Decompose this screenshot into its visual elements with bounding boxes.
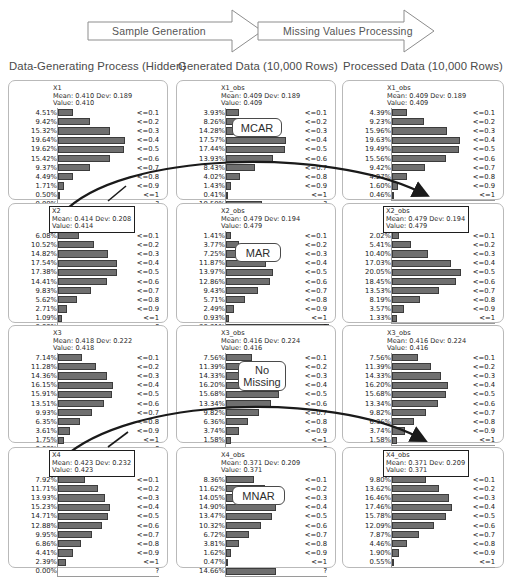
histogram-bin-label: <=0.2 xyxy=(305,363,327,371)
histogram-row: 6.36%<=0.8 xyxy=(347,417,499,426)
histogram-row-percent: 3.74% xyxy=(181,427,226,435)
histogram-bin-label: <=0.8 xyxy=(305,296,327,304)
histogram-row-percent: 20.05% xyxy=(347,268,392,276)
histogram-bin-label: <=0.5 xyxy=(305,268,327,276)
histogram-bin-label: <=0.9 xyxy=(305,182,327,190)
histogram-row: 13.93%<=0.3 xyxy=(13,493,163,502)
histogram-bar xyxy=(58,241,94,248)
histogram-bin-label: <=0.5 xyxy=(137,145,159,153)
histogram-row-percent: 19.64% xyxy=(13,136,58,144)
histogram-bar xyxy=(58,354,82,361)
histogram-row: 4.46%<=0.8 xyxy=(347,539,499,548)
histogram-panel-X1-hidden: X1Mean: 0.410 Dev: 0.189Value: 0.4104.51… xyxy=(8,80,168,200)
histogram-bar xyxy=(392,559,394,566)
histogram-row-percent: 1.09% xyxy=(13,314,58,322)
histogram-vertical-axis xyxy=(225,231,226,332)
histogram-bin-label: <=0.4 xyxy=(137,503,159,511)
histogram-row: 15.96%<=0.3 xyxy=(347,126,499,135)
histogram-row-percent: 1.60% xyxy=(347,182,392,190)
histogram-panel-X2-hidden: X2Mean: 0.414 Dev: 0.208Value: 0.4146.08… xyxy=(8,203,168,323)
panel-header-X1-generated: X1_obsMean: 0.409 Dev: 0.189Value: 0.409 xyxy=(221,85,300,108)
histogram-bin-label: <=0.1 xyxy=(305,109,327,117)
histogram-row-percent: 2.02% xyxy=(347,232,392,240)
histogram-row-percent: 13.47% xyxy=(181,512,226,520)
panel-header-X1-processed: X1_obsMean: 0.409 Dev: 0.189Value: 0.409 xyxy=(387,85,466,108)
histogram-bar xyxy=(392,531,419,538)
histogram-bar xyxy=(392,400,438,407)
histogram-row-percent: 9.37% xyxy=(13,164,58,172)
histogram-row-percent: 11.71% xyxy=(13,485,58,493)
histogram-row: 9.82%<=0.7 xyxy=(347,408,499,417)
histogram-row: 6.35%<=0.8 xyxy=(13,417,163,426)
histogram-panel-X1-generated: X1_obsMean: 0.409 Dev: 0.189Value: 0.409… xyxy=(176,80,336,200)
histogram-bar xyxy=(392,354,418,361)
histogram-bin-label: <=0.2 xyxy=(137,363,159,371)
histogram-row: 4.51%<=0.1 xyxy=(13,108,163,117)
histogram-bin-label: <=0.2 xyxy=(473,363,495,371)
histogram-bin-label: <=1 xyxy=(479,436,495,444)
histogram-row-percent: 3.74% xyxy=(347,427,392,435)
histogram-panel-X4-processed: X4_obsMean: 0.371 Dev: 0.209Value: 0.371… xyxy=(342,447,504,568)
histogram-bar xyxy=(58,127,110,134)
histogram-row: 9.42%<=0.2 xyxy=(13,117,163,126)
histogram-row-percent: 1.41% xyxy=(181,232,226,240)
histogram-bar xyxy=(226,522,261,529)
histogram-bar xyxy=(226,232,231,239)
histogram-bar xyxy=(392,315,397,322)
histogram-row-percent: 14.82% xyxy=(13,250,58,258)
mnar-chip[interactable]: MNAR xyxy=(232,486,285,505)
histogram-row-percent: 9.82% xyxy=(347,409,392,417)
histogram-bin-label: <=0.3 xyxy=(473,494,495,502)
no-missing-chip[interactable]: No Missing xyxy=(238,361,286,391)
histogram-row: 17.38%<=0.5 xyxy=(13,268,163,277)
histogram-row: 14.66%? xyxy=(181,567,331,576)
histogram-bar xyxy=(58,382,113,389)
histogram-bar xyxy=(392,260,451,267)
histogram-row: 13.34%<=0.6 xyxy=(347,399,499,408)
panel-header-X4-processed: X4_obsMean: 0.371 Dev: 0.209Value: 0.371 xyxy=(383,450,469,477)
histogram-row: 0.41%<=1 xyxy=(181,191,331,200)
histogram-bin-label: <=0.8 xyxy=(473,173,495,181)
histogram-bar xyxy=(392,437,397,444)
histogram-bin-label: <=0.1 xyxy=(305,476,327,484)
histogram-row-percent: 6.72% xyxy=(181,531,226,539)
panel-header-X2-generated: X2_obsMean: 0.479 Dev: 0.194Value: 0.479 xyxy=(221,208,300,231)
histogram-bar xyxy=(58,531,92,538)
mar-chip[interactable]: MAR xyxy=(235,243,281,262)
histogram-bin-label: <=0.4 xyxy=(137,136,159,144)
histogram-row: 9.83%<=0.7 xyxy=(13,286,163,295)
histogram-bar xyxy=(392,173,407,180)
histogram-bin-label: <=0.4 xyxy=(137,259,159,267)
histogram-bar xyxy=(392,164,425,171)
histogram-bin-label: <=0.7 xyxy=(473,164,495,172)
histogram-row: 0.93%<=1 xyxy=(181,314,331,323)
banner-arrows-svg xyxy=(0,0,511,62)
histogram-row-percent: 15.91% xyxy=(13,390,58,398)
histogram-bin-label: <=1 xyxy=(143,436,159,444)
histogram-row-percent: 4.27% xyxy=(347,173,392,181)
histogram-row-percent: 9.95% xyxy=(13,531,58,539)
histogram-bin-label: <=0.2 xyxy=(473,241,495,249)
histogram-baseline-axis xyxy=(391,445,495,446)
histogram-row-percent: 15.96% xyxy=(347,127,392,135)
histogram-bin-label: <=0.1 xyxy=(137,354,159,362)
histogram-bar xyxy=(58,315,62,322)
histogram-row-percent: 15.23% xyxy=(13,503,58,511)
histogram-bin-label: <=0.4 xyxy=(305,136,327,144)
histogram-bar xyxy=(226,559,228,566)
histogram-row-percent: 13.97% xyxy=(181,268,226,276)
histogram-bin-label: <=0.4 xyxy=(137,381,159,389)
histogram-X1-processed: 4.39%<=0.19.23%<=0.215.96%<=0.319.63%<=0… xyxy=(347,108,499,195)
histogram-row: 4.02%<=0.8 xyxy=(181,172,331,181)
mcar-chip[interactable]: MCAR xyxy=(232,118,282,137)
histogram-bar xyxy=(392,363,431,370)
histogram-bin-label: <=1 xyxy=(311,191,327,199)
histogram-bin-label: <=0.3 xyxy=(137,372,159,380)
histogram-bin-label: <=0.5 xyxy=(137,390,159,398)
panel-value: Value: 0.479 xyxy=(221,223,300,231)
histogram-bin-label: <=0.3 xyxy=(473,250,495,258)
histogram-bar xyxy=(226,513,272,520)
histogram-row: 9.23%<=0.2 xyxy=(347,117,499,126)
histogram-bar xyxy=(58,118,90,125)
histogram-row: 14.41%<=0.6 xyxy=(13,277,163,286)
